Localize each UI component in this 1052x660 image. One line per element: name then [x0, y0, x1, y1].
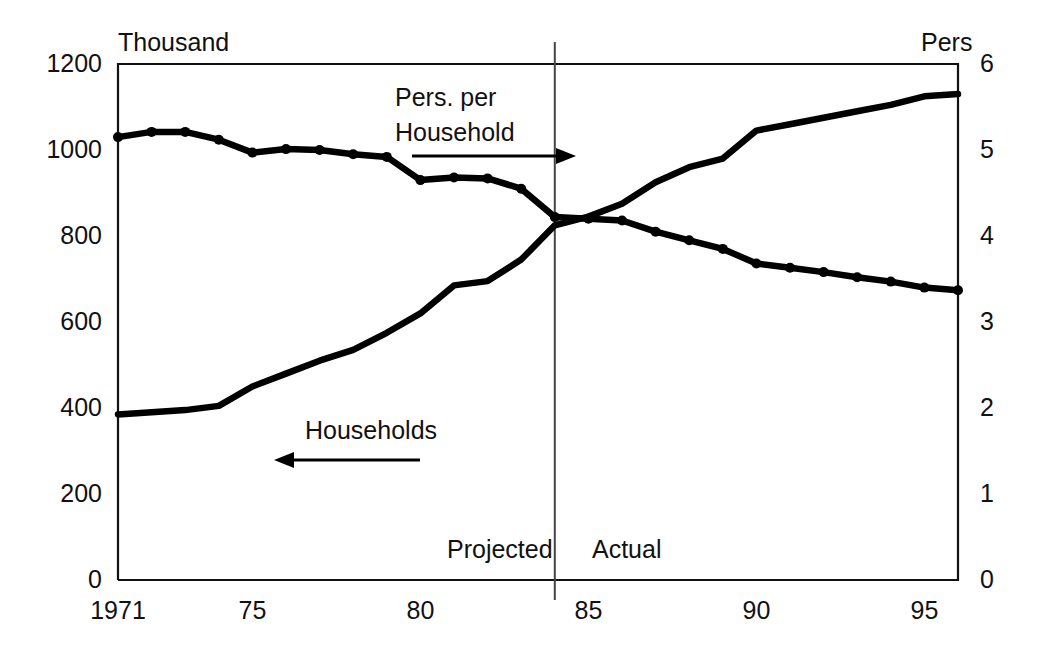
- data-point-marker: [617, 216, 627, 226]
- data-point-marker: [315, 145, 325, 155]
- data-point-marker: [281, 144, 291, 154]
- data-point-marker: [449, 173, 459, 183]
- plot-canvas: [0, 0, 1052, 660]
- data-point-marker: [247, 148, 257, 158]
- data-point-marker: [953, 285, 963, 295]
- households-arrow: [274, 452, 420, 468]
- data-point-marker: [651, 227, 661, 237]
- data-point-marker: [113, 132, 123, 142]
- series-pers-per-household: [113, 127, 963, 295]
- data-point-marker: [415, 175, 425, 185]
- data-point-marker: [919, 283, 929, 293]
- series-households: [118, 94, 958, 414]
- data-point-marker: [583, 214, 593, 224]
- series-layer: [113, 94, 963, 414]
- pers-per-household-arrow: [412, 148, 576, 164]
- data-point-marker: [852, 272, 862, 282]
- data-point-marker: [180, 127, 190, 137]
- data-point-marker: [147, 127, 157, 137]
- data-point-marker: [684, 235, 694, 245]
- data-point-marker: [751, 259, 761, 269]
- plot-frame: [118, 64, 958, 580]
- data-point-marker: [819, 267, 829, 277]
- data-point-marker: [550, 212, 560, 222]
- data-point-marker: [214, 135, 224, 145]
- data-point-marker: [382, 152, 392, 162]
- data-point-marker: [348, 149, 358, 159]
- data-point-marker: [516, 184, 526, 194]
- data-point-marker: [483, 173, 493, 183]
- data-point-marker: [886, 277, 896, 287]
- series-line: [118, 94, 958, 414]
- data-point-marker: [718, 244, 728, 254]
- data-point-marker: [785, 263, 795, 273]
- chart-figure: Thousand Pers 020040060080010001200 0123…: [0, 0, 1052, 660]
